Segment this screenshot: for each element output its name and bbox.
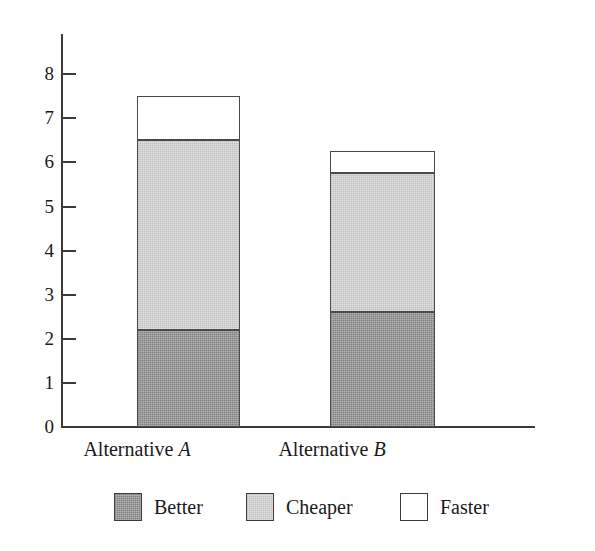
y-axis-tick-label-7: 7 xyxy=(24,108,54,127)
legend-label-cheaper: Cheaper xyxy=(286,495,353,519)
tick-label-text: 2 xyxy=(28,329,54,348)
y-axis-tick-6 xyxy=(63,161,76,163)
bar-segment-b-faster xyxy=(330,151,435,173)
y-axis-tick-label-3: 3 xyxy=(24,285,54,304)
y-axis-tick-label-2: 2 xyxy=(24,329,54,348)
y-axis-tick-label-4: 4 xyxy=(24,241,54,260)
category-label-alternative-b: Alternative B xyxy=(222,437,442,461)
legend-swatch-better-icon xyxy=(114,493,142,521)
tick-label-text: 6 xyxy=(28,152,54,171)
tick-label-text: 1 xyxy=(28,373,54,392)
y-axis-tick-label-6: 6 xyxy=(24,152,54,171)
legend-label-faster: Faster xyxy=(440,495,489,519)
legend-item-better: Better xyxy=(114,490,203,524)
stacked-bar-b xyxy=(330,151,435,427)
chart-legend: Better Cheaper Faster xyxy=(0,490,595,530)
bar-segment-b-cheaper xyxy=(330,173,435,312)
y-axis-tick-label-0: 0 xyxy=(24,417,54,436)
category-label-prefix: Alternative xyxy=(83,438,178,460)
y-axis-tick-label-8: 8 xyxy=(24,64,54,83)
bar-segment-a-faster xyxy=(137,96,240,140)
category-label-letter: B xyxy=(373,438,385,460)
y-axis-tick-label-5: 5 xyxy=(24,197,54,216)
tick-label-text: 4 xyxy=(28,241,54,260)
y-axis-tick-3 xyxy=(63,294,76,296)
y-axis-tick-4 xyxy=(63,250,76,252)
tick-label-text: 5 xyxy=(28,197,54,216)
legend-item-faster: Faster xyxy=(400,490,489,524)
y-axis-tick-5 xyxy=(63,206,76,208)
y-axis-tick-8 xyxy=(63,73,76,75)
tick-label-text: 3 xyxy=(28,285,54,304)
y-axis-tick-7 xyxy=(63,117,76,119)
legend-swatch-faster-icon xyxy=(400,493,428,521)
category-label-letter: A xyxy=(178,438,190,460)
category-label-prefix: Alternative xyxy=(278,438,373,460)
x-axis-line xyxy=(61,426,535,428)
tick-label-text: 0 xyxy=(28,417,54,436)
legend-item-cheaper: Cheaper xyxy=(246,490,353,524)
tick-label-text: 7 xyxy=(28,108,54,127)
plot-area: 876543210 Alternative A Alternative B xyxy=(0,0,595,470)
y-axis-tick-1 xyxy=(63,382,76,384)
bar-segment-a-better xyxy=(137,330,240,427)
y-axis-tick-label-1: 1 xyxy=(24,373,54,392)
bar-segment-a-cheaper xyxy=(137,140,240,330)
tick-label-text: 8 xyxy=(28,64,54,83)
stacked-bar-a xyxy=(137,96,240,427)
stacked-bar-chart-figure: 876543210 Alternative A Alternative B Be… xyxy=(0,0,595,551)
category-label-alternative-a: Alternative A xyxy=(27,437,247,461)
y-axis-tick-2 xyxy=(63,338,76,340)
y-axis-line xyxy=(61,34,63,428)
y-axis-tick-0 xyxy=(63,426,76,428)
legend-label-better: Better xyxy=(154,495,203,519)
bar-segment-b-better xyxy=(330,312,435,427)
legend-swatch-cheaper-icon xyxy=(246,493,274,521)
